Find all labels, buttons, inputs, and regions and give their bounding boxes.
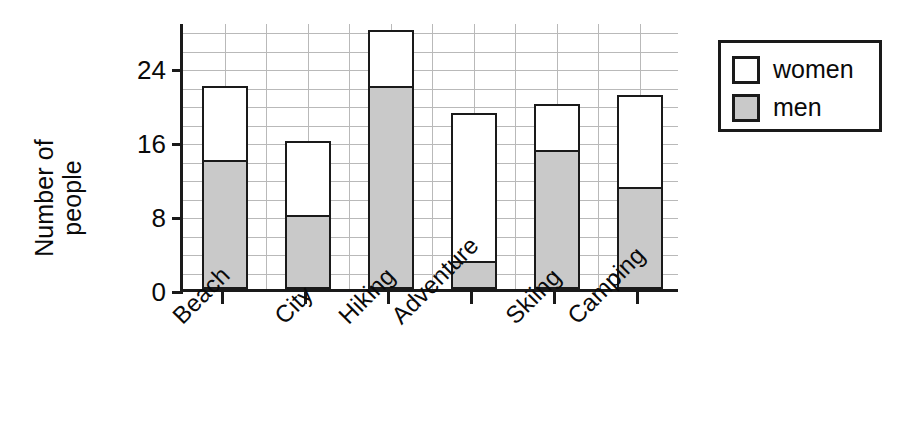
legend-item-men: men (732, 89, 879, 126)
plot-area (180, 24, 678, 292)
bar-segment-women (285, 141, 331, 217)
y-axis-tick-mark (172, 69, 183, 72)
legend-label-women: women (773, 55, 854, 84)
y-axis-tick-mark (172, 217, 183, 220)
y-axis-tick-label: 8 (152, 203, 166, 234)
bar-hiking (368, 30, 414, 289)
legend-swatch-women-icon (732, 56, 760, 84)
x-axis-tick-mark (636, 292, 639, 304)
bars-layer (183, 24, 678, 289)
bar-segment-men (368, 86, 414, 289)
bar-segment-women (617, 95, 663, 189)
legend-item-women: women (732, 51, 879, 88)
bar-skiing (534, 104, 580, 289)
y-axis-title-line-2: people (58, 160, 86, 236)
y-axis-tick-mark (172, 291, 183, 294)
bar-segment-women (534, 104, 580, 152)
chart-legend: women men (718, 40, 882, 132)
y-axis-title: Number of people (20, 83, 96, 313)
bar-segment-women (368, 30, 414, 87)
y-axis-tick-mark (172, 143, 183, 146)
legend-label-men: men (773, 93, 822, 122)
stacked-bar-chart: Number of people 081624 BeachCityHikingA… (0, 0, 905, 446)
bar-city (285, 141, 331, 289)
y-axis-tick-label: 16 (137, 129, 166, 160)
y-axis-tick-labels: 081624 (108, 24, 166, 292)
y-axis-title-line-1: Number of (30, 139, 58, 257)
bar-segment-men (285, 215, 331, 289)
bar-beach (202, 86, 248, 289)
y-axis-tick-label: 0 (152, 277, 166, 308)
legend-swatch-men-icon (732, 94, 760, 122)
bar-segment-women (202, 86, 248, 162)
x-axis-tick-mark (470, 292, 473, 304)
y-axis-tick-label: 24 (137, 55, 166, 86)
